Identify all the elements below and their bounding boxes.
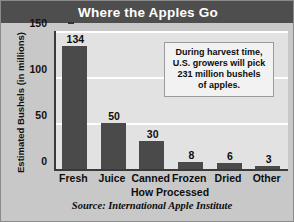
bar-value-frozen: 8 bbox=[175, 149, 208, 161]
chart-figure: Where the Apples Go Estimated Bushels (i… bbox=[0, 0, 294, 222]
bar-value-canned: 30 bbox=[136, 128, 169, 140]
annotation-line-3: 231 million bushels bbox=[168, 69, 270, 80]
source-note: Source: International Apple Institute bbox=[21, 200, 283, 211]
bar-fresh bbox=[62, 46, 87, 169]
y-tick-label-0: 0 bbox=[21, 155, 47, 167]
bar-value-fresh: 134 bbox=[59, 33, 92, 45]
bar-value-other: 3 bbox=[252, 153, 285, 165]
annotation-callout: During harvest time, U.S. growers will p… bbox=[164, 42, 274, 97]
y-tick-label-150: 150 bbox=[21, 17, 47, 29]
x-tick-label-juice: Juice bbox=[92, 172, 132, 184]
y-tick-mark-150 bbox=[68, 22, 74, 24]
x-tick-label-canned: Canned bbox=[131, 172, 171, 184]
bar-value-dried: 6 bbox=[214, 150, 247, 162]
x-tick-label-frozen: Frozen bbox=[169, 172, 209, 184]
y-tick-label-50: 50 bbox=[21, 109, 47, 121]
bar-juice bbox=[101, 123, 126, 169]
bar-value-juice: 50 bbox=[98, 110, 131, 122]
x-tick-label-fresh: Fresh bbox=[53, 172, 93, 184]
y-tick-label-100: 100 bbox=[21, 63, 47, 75]
bar-slot: 134 bbox=[59, 31, 92, 169]
annotation-line-4: of apples. bbox=[168, 80, 270, 91]
page-title: Where the Apples Go bbox=[78, 5, 218, 20]
bar-frozen bbox=[178, 162, 203, 169]
bar-dried bbox=[217, 163, 242, 169]
x-axis-tick-labels: FreshJuiceCannedFrozenDriedOther bbox=[54, 172, 286, 186]
annotation-line-1: During harvest time, bbox=[168, 47, 270, 58]
bar-slot: 50 bbox=[98, 31, 131, 169]
bar-canned bbox=[139, 141, 164, 169]
x-tick-label-dried: Dried bbox=[208, 172, 248, 184]
x-axis-label: How Processed bbox=[54, 186, 286, 198]
x-tick-label-other: Other bbox=[247, 172, 287, 184]
y-axis-tick-labels: 0 50 100 150 bbox=[21, 23, 47, 173]
bar-other bbox=[255, 166, 280, 169]
annotation-line-2: U.S. growers will pick bbox=[168, 58, 270, 69]
